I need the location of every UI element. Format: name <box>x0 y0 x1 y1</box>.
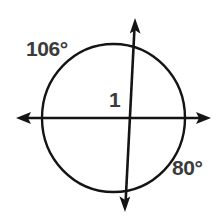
geometry-figure: 106° 80° 1 <box>0 0 221 218</box>
arc-label-upper-left: 106° <box>26 38 68 59</box>
arc-label-lower-right: 80° <box>172 157 203 178</box>
segment-label-one: 1 <box>109 89 121 110</box>
